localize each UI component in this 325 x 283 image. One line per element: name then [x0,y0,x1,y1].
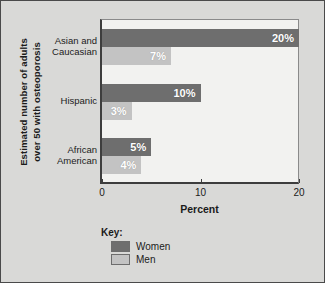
y-axis-title: Estimated number of adults over 50 with … [15,19,45,184]
bar-men-asian-and-caucasian: 7% [102,47,171,65]
chart-figure: Estimated number of adults over 50 with … [0,0,325,283]
x-tickmark [201,179,202,183]
bars-container: 20%7%10%3%5%4% [102,20,298,182]
bar-value-label: 10% [173,87,200,99]
category-label-african-american: African American [45,144,97,166]
x-tick-label: 0 [99,187,105,198]
legend-item-women: Women [111,241,170,252]
legend-swatch-men-icon [111,254,130,265]
bar-value-label: 3% [111,105,132,117]
x-axis-title: Percent [100,203,299,215]
legend: Key: Women Men [101,227,170,267]
category-label-asian-and-caucasian: Asian and Caucasian [45,35,97,57]
bar-value-label: 20% [272,32,299,44]
x-axis-tick-labels: 01020 [100,187,299,201]
plot-area: 20%7%10%3%5%4% [100,19,299,184]
legend-title: Key: [101,227,170,238]
bar-women-asian-and-caucasian: 20% [102,29,299,47]
legend-item-men: Men [111,254,170,265]
y-axis-title-line-2: over 50 with osteoporosis [30,38,43,166]
bar-value-label: 7% [150,50,171,62]
bar-men-hispanic: 3% [102,102,132,120]
bar-women-hispanic: 10% [102,84,201,102]
bar-value-label: 4% [120,159,141,171]
x-tickmark [299,179,300,183]
legend-swatch-women-icon [111,241,130,252]
bar-value-label: 5% [130,141,151,153]
x-tick-label: 10 [195,187,206,198]
bar-men-african-american: 4% [102,156,141,174]
legend-label-men: Men [136,254,155,265]
x-tickmark [102,179,103,183]
category-labels: Asian and Caucasian Hispanic African Ame… [45,19,97,184]
legend-label-women: Women [136,241,170,252]
x-tick-label: 20 [293,187,304,198]
bar-women-african-american: 5% [102,138,151,156]
y-axis-title-line-1: Estimated number of adults [18,38,31,166]
category-label-hispanic: Hispanic [45,95,97,106]
